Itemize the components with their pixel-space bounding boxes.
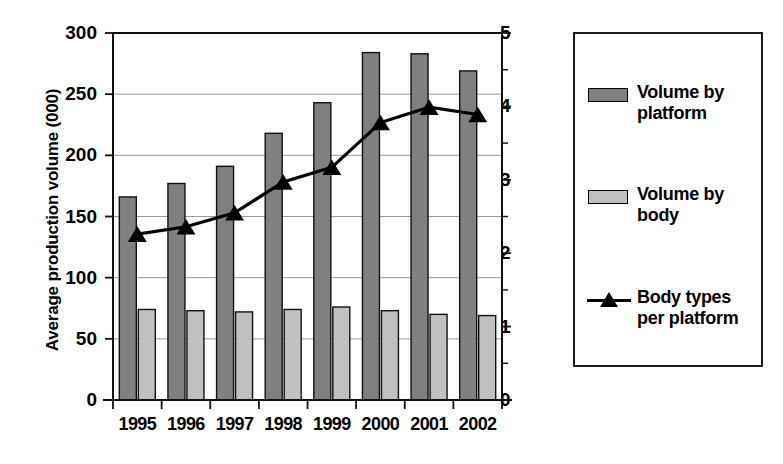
bar [168, 183, 185, 400]
x-axis-tick-label: 1998 [259, 414, 308, 444]
legend-line-triangle-icon [587, 290, 631, 310]
bar [479, 316, 496, 400]
bar [314, 103, 331, 400]
chart-figure: Average production volume (000) Number o… [0, 0, 783, 464]
bar [138, 309, 155, 400]
bar [284, 309, 301, 400]
x-axis-tick-label: 2001 [405, 414, 454, 444]
bar [333, 307, 350, 400]
legend-item-volume-by-body[interactable]: Volume by body [587, 184, 759, 226]
bar [217, 166, 234, 400]
bar [381, 311, 398, 400]
legend-label: Volume by body [631, 184, 759, 226]
x-axis-ticks: 19951996199719981999200020012002 [113, 414, 502, 444]
bar [119, 197, 136, 400]
legend-label: Body types per platform [631, 287, 759, 329]
legend-label: Volume by platform [631, 82, 759, 124]
x-axis-tick-label: 1995 [113, 414, 162, 444]
x-axis-tick-label: 1999 [308, 414, 357, 444]
legend-swatch-light-icon [587, 187, 631, 207]
legend-item-volume-by-platform[interactable]: Volume by platform [587, 82, 759, 124]
x-axis-tick-label: 2000 [356, 414, 405, 444]
x-axis-tick-label: 1996 [162, 414, 211, 444]
bar [362, 53, 379, 400]
legend-item-body-types-per-platform[interactable]: Body types per platform [587, 287, 759, 329]
bar [236, 312, 253, 400]
bar [430, 314, 447, 400]
legend-swatch-dark-icon [587, 85, 631, 105]
bar [265, 133, 282, 400]
bar [187, 311, 204, 400]
x-axis-tick-label: 1997 [210, 414, 259, 444]
x-axis-tick-label: 2002 [453, 414, 502, 444]
chart-legend: Volume by platform Volume by body Body t… [573, 32, 763, 367]
